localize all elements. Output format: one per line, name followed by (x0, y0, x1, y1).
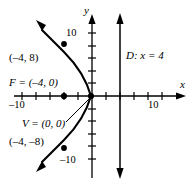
point-upper-label: (–4, 8) (9, 52, 38, 63)
point-lower-dot (61, 145, 67, 151)
graph-canvas (0, 0, 193, 186)
x-axis (14, 92, 186, 100)
vertex-label: V = (0, 0) (22, 118, 65, 129)
directrix-label: D: x = 4 (126, 50, 164, 61)
parabola-figure: y x 10 –10 –10 10 (–4, 8) F = (–4, 0) V … (0, 0, 193, 186)
focus-label: F = (–4, 0) (9, 77, 58, 88)
point-upper-dot (61, 41, 67, 47)
y-tick-label-neg10: –10 (60, 155, 76, 166)
vertex-dot (88, 93, 94, 99)
x-axis-label: x (180, 79, 185, 90)
focus-dot (61, 93, 67, 99)
x-tick-label-neg10: –10 (9, 100, 25, 111)
x-tick-label-10: 10 (148, 100, 159, 111)
y-tick-label-10: 10 (66, 28, 77, 39)
point-lower-label: (–4, –8) (9, 136, 44, 147)
y-axis-label: y (84, 5, 89, 16)
